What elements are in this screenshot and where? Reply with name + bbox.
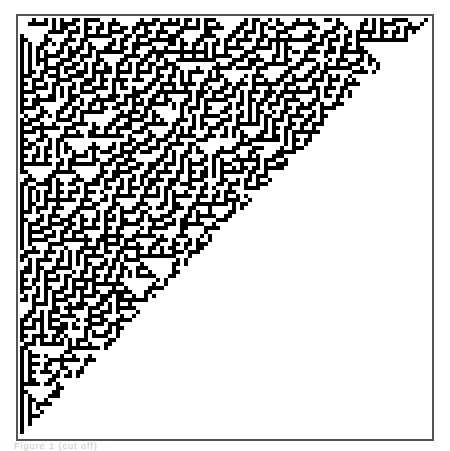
automaton-cell (96, 126, 100, 130)
automaton-cell (132, 314, 136, 318)
automaton-cell (96, 182, 100, 186)
automaton-cell (232, 210, 236, 214)
automaton-cell (84, 270, 88, 274)
automaton-cell (148, 30, 152, 34)
figure-caption: Figure 1 (cut off) (14, 441, 98, 451)
automaton-cell (96, 226, 100, 230)
automaton-cell (124, 86, 128, 90)
automaton-cell (368, 62, 372, 66)
automaton-cell (88, 238, 92, 242)
automaton-cell (44, 86, 48, 90)
automaton-cell (328, 94, 332, 98)
automaton-cell (60, 30, 64, 34)
automaton-cell (132, 210, 136, 214)
automaton-cell (152, 246, 156, 250)
automaton-cell (24, 82, 28, 86)
automaton-cell (356, 82, 360, 86)
automaton-cell (92, 190, 96, 194)
automaton-cell (184, 262, 188, 266)
automaton-cell (64, 106, 68, 110)
automaton-cell (280, 166, 284, 170)
automaton-cell (420, 22, 424, 26)
automaton-cell (60, 190, 64, 194)
automaton-cell (96, 246, 100, 250)
automaton-cell (164, 66, 168, 70)
automaton-cell (72, 54, 76, 58)
automaton-cell (24, 334, 28, 338)
automaton-cell (260, 38, 264, 42)
automaton-cell (312, 114, 316, 118)
automaton-cell (224, 134, 228, 138)
automaton-cell (348, 42, 352, 46)
automaton-cell (140, 226, 144, 230)
automaton-cell (316, 50, 320, 54)
automaton-cell (168, 134, 172, 138)
automaton-cell (212, 134, 216, 138)
automaton-cell (36, 382, 40, 386)
automaton-cell (248, 198, 252, 202)
automaton-cell (136, 46, 140, 50)
automaton-cell (44, 22, 48, 26)
automaton-cell (108, 126, 112, 130)
automaton-cell (224, 86, 228, 90)
automaton-cell (256, 90, 260, 94)
automaton-cell (36, 294, 40, 298)
automaton-cell (240, 206, 244, 210)
automaton-cell (156, 194, 160, 198)
automaton-cell (172, 222, 176, 226)
automaton-cell (132, 150, 136, 154)
automaton-cell (200, 234, 204, 238)
automaton-cell (136, 186, 140, 190)
automaton-cell (112, 42, 116, 46)
automaton-cell (84, 362, 88, 366)
automaton-cell (52, 250, 56, 254)
automaton-cell (188, 98, 192, 102)
automaton-cell (100, 266, 104, 270)
automaton-cell (292, 26, 296, 30)
automaton-cell (136, 310, 140, 314)
automaton-cell (196, 26, 200, 30)
automaton-cell (108, 162, 112, 166)
automaton-cell (284, 142, 288, 146)
automaton-cell (76, 18, 80, 22)
automaton-cell (308, 90, 312, 94)
automaton-cell (80, 370, 84, 374)
automaton-cell (320, 42, 324, 46)
automaton-cell (228, 66, 232, 70)
automaton-cell (36, 62, 40, 66)
automaton-cell (260, 102, 264, 106)
automaton-cell (72, 270, 76, 274)
automaton-cell (32, 106, 36, 110)
automaton-cell (92, 78, 96, 82)
automaton-cell (76, 318, 80, 322)
automaton-cell (244, 74, 248, 78)
automaton-cell (304, 122, 308, 126)
automaton-cell (104, 198, 108, 202)
automaton-cell (128, 70, 132, 74)
automaton-cell (148, 70, 152, 74)
automaton-cell (236, 146, 240, 150)
automaton-cell (80, 46, 84, 50)
automaton-cell (124, 38, 128, 42)
automaton-cell (164, 238, 168, 242)
automaton-cell (56, 278, 60, 282)
automaton-cell (216, 194, 220, 198)
automaton-cell (192, 170, 196, 174)
automaton-cell (32, 370, 36, 374)
automaton-cell (76, 326, 80, 330)
automaton-cell (152, 82, 156, 86)
automaton-cell (64, 286, 68, 290)
automaton-cell (116, 118, 120, 122)
automaton-cell (84, 286, 88, 290)
automaton-cell (120, 62, 124, 66)
automaton-cell (196, 250, 200, 254)
automaton-cell (60, 182, 64, 186)
automaton-cell (64, 150, 68, 154)
automaton-cell (148, 86, 152, 90)
automaton-cell (28, 286, 32, 290)
automaton-cell (188, 18, 192, 22)
automaton-cell (172, 162, 176, 166)
automaton-cell (248, 178, 252, 182)
automaton-cell (140, 130, 144, 134)
automaton-cell (44, 42, 48, 46)
